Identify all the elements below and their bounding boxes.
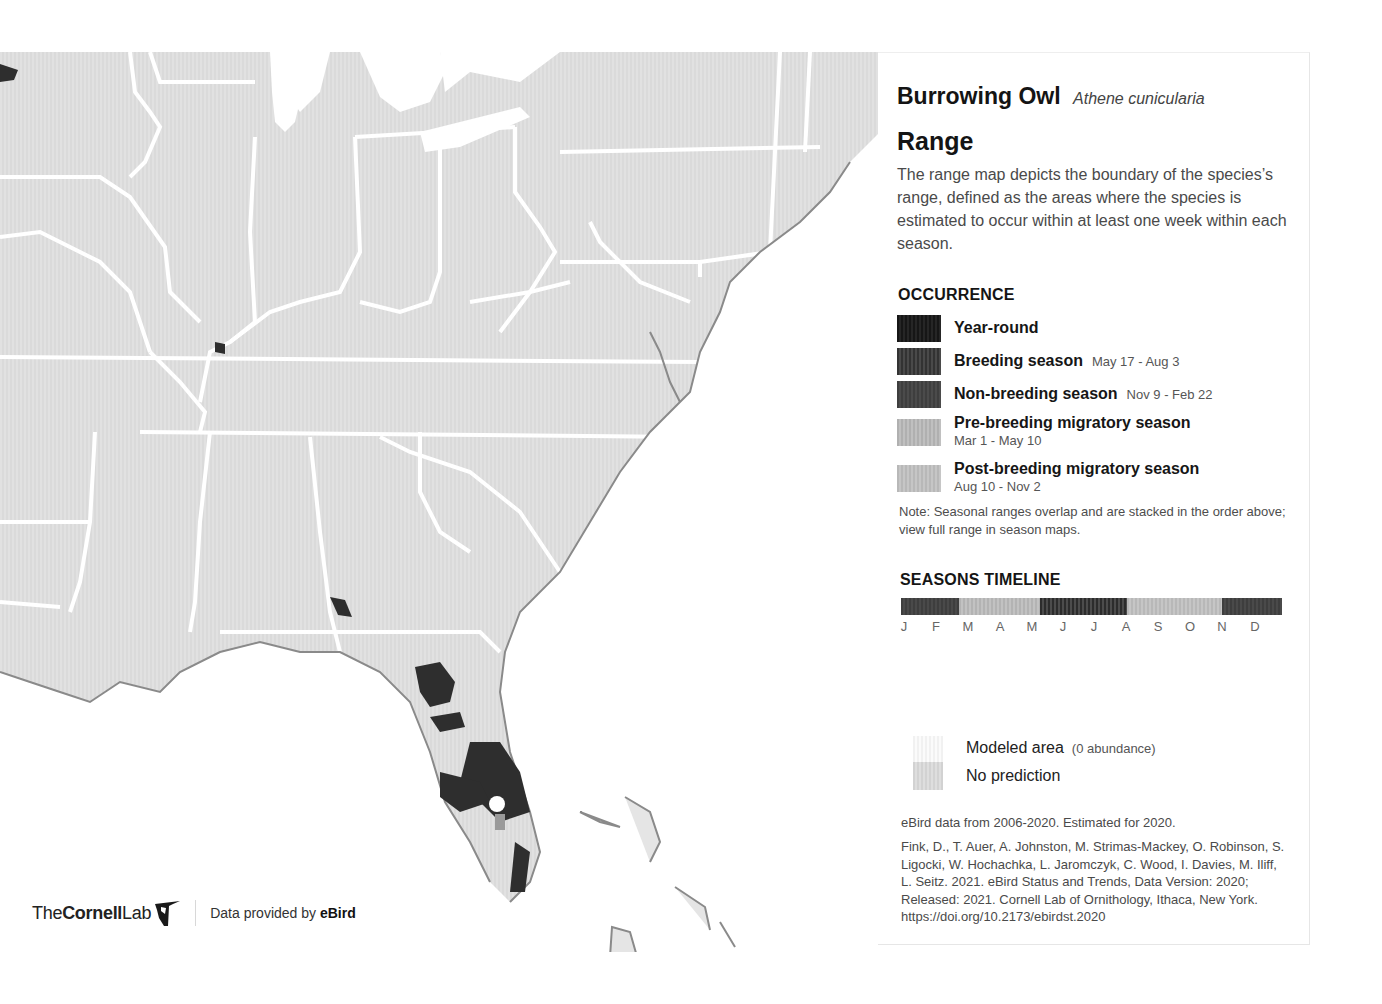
range-map[interactable] xyxy=(0,52,880,952)
year-round-swatch xyxy=(897,315,941,342)
legend-panel: Burrowing Owl Athene cunicularia Range T… xyxy=(878,52,1310,945)
month-label: F xyxy=(932,619,940,634)
citation: Fink, D., T. Auer, A. Johnston, M. Strim… xyxy=(901,838,1291,926)
non-breeding-swatch xyxy=(897,381,941,408)
timeline-segment-breeding xyxy=(1040,598,1127,615)
ebird-brand-link[interactable]: eBird xyxy=(320,905,356,921)
map-canvas xyxy=(0,52,880,952)
breeding-label: Breeding season xyxy=(954,352,1083,369)
non-breeding-label: Non-breeding season xyxy=(954,385,1118,402)
month-label: J xyxy=(901,619,908,634)
non-breeding-dates: Nov 9 - Feb 22 xyxy=(1127,387,1213,402)
species-header: Burrowing Owl Athene cunicularia xyxy=(897,83,1205,110)
logo-lab: Lab xyxy=(122,903,151,924)
logo-cornell: Cornell xyxy=(62,903,122,924)
lake-okeechobee xyxy=(489,796,505,812)
timeline-segment-non-breeding xyxy=(901,598,959,615)
month-label: A xyxy=(1122,619,1131,634)
timeline-title: SEASONS TIMELINE xyxy=(900,571,1061,589)
occurrence-note: Note: Seasonal ranges overlap and are st… xyxy=(899,503,1289,539)
no-prediction-label: No prediction xyxy=(966,767,1060,785)
legend-item-post-breeding: Post-breeding migratory season Aug 10 - … xyxy=(897,460,1199,494)
cornell-bird-icon xyxy=(153,898,181,928)
data-provided-by: Data provided by eBird xyxy=(210,905,356,921)
footer-logos: TheCornellLab Data provided by eBird xyxy=(32,896,356,930)
month-label: S xyxy=(1154,619,1163,634)
range-patch-migratory xyxy=(495,814,505,830)
logo-divider xyxy=(195,900,196,926)
modeled-area-swatch xyxy=(913,736,943,762)
breeding-dates: May 17 - Aug 3 xyxy=(1092,354,1179,369)
timeline-months: J F M A M J J A S O N D xyxy=(897,619,1287,635)
occurrence-title: OCCURRENCE xyxy=(898,286,1015,304)
pre-breeding-swatch xyxy=(897,419,941,446)
legend-item-non-breeding: Non-breeding seasonNov 9 - Feb 22 xyxy=(897,381,1213,408)
scientific-name: Athene cunicularia xyxy=(1073,90,1205,107)
month-label: O xyxy=(1185,619,1195,634)
data-range: eBird data from 2006-2020. Estimated for… xyxy=(901,815,1176,830)
seasons-timeline-bar xyxy=(901,598,1282,615)
modeled-area-label: Modeled area xyxy=(966,739,1064,756)
common-name: Burrowing Owl xyxy=(897,83,1061,109)
month-label: A xyxy=(996,619,1005,634)
post-breeding-label: Post-breeding migratory season xyxy=(954,460,1199,477)
legend-item-pre-breeding: Pre-breeding migratory season Mar 1 - Ma… xyxy=(897,414,1191,448)
month-label: D xyxy=(1250,619,1259,634)
timeline-segment-non-breeding-end xyxy=(1222,598,1282,615)
month-label: M xyxy=(963,619,974,634)
post-breeding-swatch xyxy=(897,465,941,492)
timeline-segment-post-breeding xyxy=(1127,598,1222,615)
post-breeding-dates: Aug 10 - Nov 2 xyxy=(954,479,1199,494)
pre-breeding-dates: Mar 1 - May 10 xyxy=(954,433,1191,448)
month-label: J xyxy=(1060,619,1067,634)
range-description: The range map depicts the boundary of th… xyxy=(897,163,1292,255)
pre-breeding-label: Pre-breeding migratory season xyxy=(954,414,1191,431)
month-label: N xyxy=(1217,619,1226,634)
logo-the: The xyxy=(32,903,62,924)
month-label: J xyxy=(1091,619,1098,634)
modeled-area-sub: (0 abundance) xyxy=(1072,741,1156,756)
month-label: M xyxy=(1027,619,1038,634)
legend-item-breeding: Breeding seasonMay 17 - Aug 3 xyxy=(897,348,1179,375)
timeline-segment-pre-breeding xyxy=(959,598,1040,615)
cornell-lab-logo[interactable]: TheCornellLab xyxy=(32,898,181,928)
bahamas xyxy=(580,797,735,952)
range-title: Range xyxy=(897,127,973,156)
year-round-label: Year-round xyxy=(954,319,1038,336)
provided-prefix: Data provided by xyxy=(210,905,320,921)
breeding-swatch xyxy=(897,348,941,375)
no-prediction-swatch xyxy=(913,762,943,790)
modeled-area-row: Modeled area(0 abundance) xyxy=(966,739,1156,757)
legend-item-year-round: Year-round xyxy=(897,315,1038,342)
